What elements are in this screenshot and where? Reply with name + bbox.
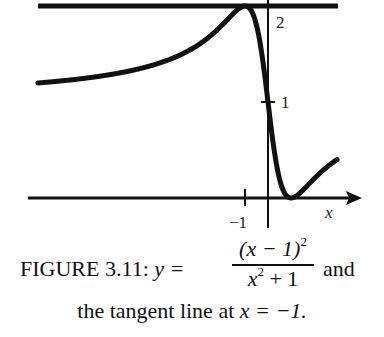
caption-fraction: (x − 1)2 x2 + 1 [228,238,318,290]
function-curve [38,6,337,198]
caption-line2: the tangent line at x = −1. [0,300,384,322]
x-axis-label: x [325,204,333,221]
caption-line2-text: the tangent line at [77,298,234,323]
caption-suffix: and [323,258,355,280]
caption-line2-math: x = −1. [240,298,307,323]
caption-denominator: x2 + 1 [228,268,318,290]
denominator-base: x [248,266,258,291]
y-tick-label-1: 1 [281,94,290,111]
denominator-tail: + 1 [269,266,298,291]
caption-lhs: y = [154,256,184,281]
numerator-exponent: 2 [300,234,307,249]
caption-numerator: (x − 1)2 [228,238,318,262]
denominator-exponent: 2 [257,264,264,279]
caption-prefix: FIGURE 3.11: [20,256,149,281]
figure-caption: FIGURE 3.11: y = (x − 1)2 x2 + 1 and the… [0,238,384,322]
caption-prefix-group: FIGURE 3.11: y = [20,258,184,280]
numerator-base: (x − 1) [239,236,300,261]
y-tick-label-2: 2 [276,14,285,31]
x-tick-label-neg1: −1 [229,214,247,231]
